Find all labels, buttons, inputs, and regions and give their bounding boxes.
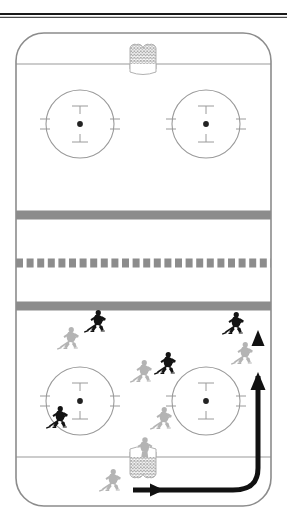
rink-canvas: [0, 0, 287, 526]
page-top-rule: [0, 14, 287, 17]
hockey-rink-diagram: Hockey Rink Play Diagram Dark team playe…: [0, 0, 287, 526]
net-top: [130, 44, 156, 74]
bottom-blue-line: [16, 302, 271, 311]
top-blue-line: [16, 211, 271, 220]
ice-surface: [16, 33, 271, 506]
